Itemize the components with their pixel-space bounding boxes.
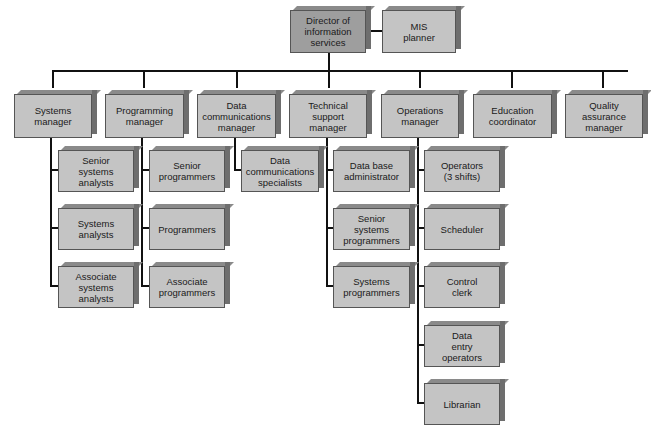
manager-label: Technical support manager [308, 100, 348, 133]
data-entry-operators-box: Data entry operators [424, 325, 500, 367]
datacomm-manager-box: Data communications manager [197, 94, 276, 138]
staff-label: Data communications specialists [246, 155, 315, 188]
librarian-box: Librarian [424, 383, 500, 425]
systems-programmers-box: Systems programmers [333, 266, 410, 308]
programming-tick-2 [141, 227, 149, 229]
technical-manager-box: Technical support manager [289, 94, 367, 138]
systems-tick-1 [50, 169, 58, 171]
staff-label: Programmers [158, 224, 216, 235]
staff-label: Systems analysts [78, 218, 114, 240]
staff-label: Associate systems analysts [75, 271, 116, 304]
operators-box: Operators (3 shifts) [424, 150, 500, 192]
manager-label: Education coordinator [489, 105, 537, 127]
technical-vertical [326, 138, 328, 287]
director-to-bus-line [328, 52, 330, 71]
drop-quality [602, 70, 604, 88]
mis-planner-box: MIS planner [382, 10, 456, 53]
drop-education [511, 70, 513, 88]
director-label: Director of information services [305, 15, 352, 48]
education-coordinator-box: Education coordinator [473, 94, 552, 138]
manager-label: Operations manager [397, 105, 443, 127]
manager-label: Quality assurance manager [582, 100, 626, 133]
datacomm-vertical [234, 138, 236, 170]
planner-label: MIS planner [403, 21, 435, 43]
associate-programmers-box: Associate programmers [149, 266, 225, 308]
senior-systems-programmers-box: Senior systems programmers [333, 208, 410, 250]
systems-vertical [50, 138, 52, 287]
manager-label: Data communications manager [202, 100, 271, 133]
systems-tick-2 [50, 227, 58, 229]
staff-label: Senior systems programmers [343, 213, 400, 246]
quality-manager-box: Quality assurance manager [565, 94, 643, 138]
programming-vertical [141, 138, 143, 287]
senior-programmers-box: Senior programmers [149, 150, 225, 192]
drop-operations [419, 70, 421, 88]
staff-label: Senior systems analysts [79, 155, 114, 188]
systems-analysts-box: Systems analysts [58, 208, 134, 250]
staff-label: Data entry operators [442, 330, 482, 363]
scheduler-box: Scheduler [424, 208, 500, 250]
director-box: Director of information services [290, 10, 366, 53]
staff-label: Systems programmers [343, 276, 400, 298]
associate-systems-analysts-box: Associate systems analysts [58, 266, 134, 308]
main-bus-line [52, 70, 628, 72]
manager-label: Programming manager [116, 105, 173, 127]
systems-tick-3 [50, 285, 58, 287]
database-administrator-box: Data base administrator [333, 150, 410, 192]
drop-technical [328, 70, 330, 88]
systems-manager-box: Systems manager [14, 94, 92, 138]
drop-programming [143, 70, 145, 88]
staff-label: Senior programmers [159, 160, 216, 182]
programmers-box: Programmers [149, 208, 225, 250]
programming-tick-1 [141, 169, 149, 171]
senior-systems-analysts-box: Senior systems analysts [58, 150, 134, 192]
staff-label: Librarian [444, 399, 481, 410]
programming-tick-3 [141, 285, 149, 287]
drop-datacomm [236, 70, 238, 88]
staff-label: Scheduler [441, 224, 484, 235]
programming-manager-box: Programming manager [105, 94, 184, 138]
drop-systems [52, 70, 54, 88]
staff-label: Associate programmers [159, 276, 216, 298]
control-clerk-box: Control clerk [424, 266, 500, 308]
manager-label: Systems manager [34, 105, 72, 127]
staff-label: Operators (3 shifts) [441, 160, 483, 182]
operations-manager-box: Operations manager [381, 94, 459, 138]
staff-label: Data base administrator [344, 160, 399, 182]
staff-label: Control clerk [447, 276, 478, 298]
operations-vertical [417, 138, 419, 404]
datacomm-specialists-box: Data communications specialists [241, 150, 319, 192]
